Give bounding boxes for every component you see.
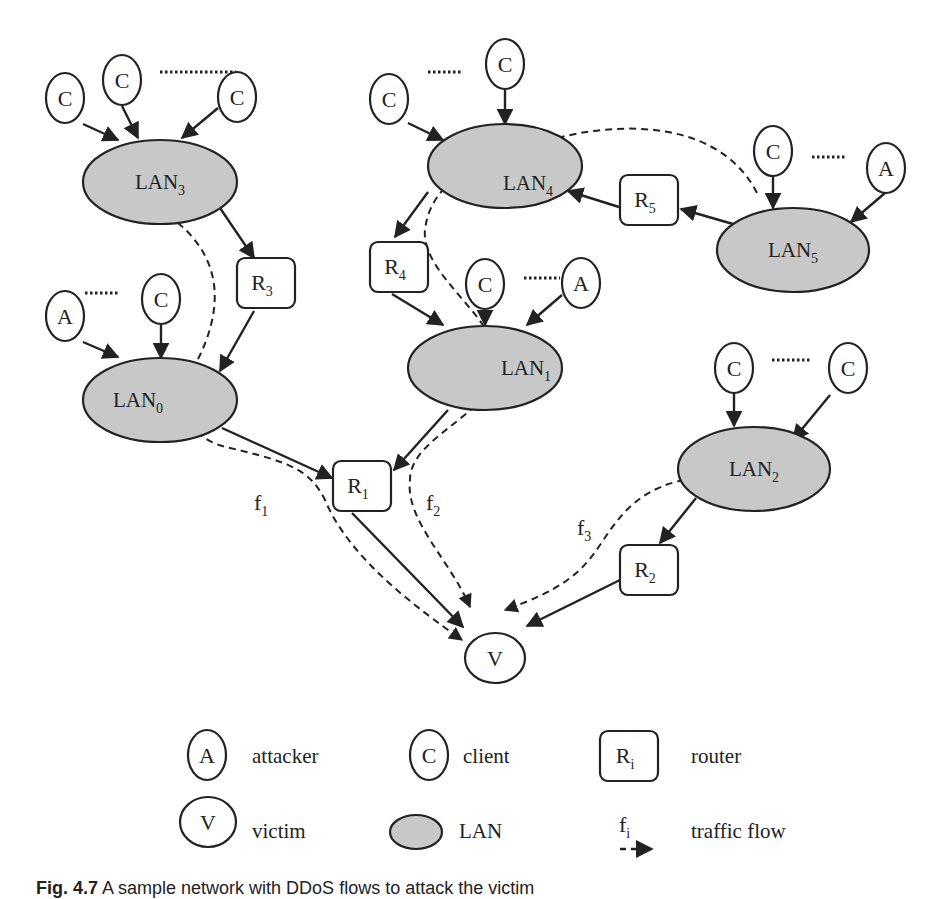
svg-text:LAN5: LAN5 xyxy=(768,238,818,266)
svg-text:LAN2: LAN2 xyxy=(729,457,779,485)
svg-text:C: C xyxy=(230,85,245,110)
attacker-node: A xyxy=(562,258,600,308)
victim-node: V xyxy=(465,633,525,683)
legend-flow: fi traffic flow xyxy=(619,812,786,849)
legend: A attacker C client Ri router V victim L… xyxy=(180,730,786,849)
figure-number: Fig. 4.7 xyxy=(36,878,98,898)
svg-text:C: C xyxy=(766,139,781,164)
router-r5: R5 xyxy=(620,175,678,225)
flow-labels: f1 f2 f3 xyxy=(254,490,591,544)
client-node: C xyxy=(218,72,256,122)
svg-text:LAN3: LAN3 xyxy=(135,170,185,198)
lan-0: LAN0 xyxy=(83,358,237,442)
svg-text:victim: victim xyxy=(252,819,306,843)
client-node: C xyxy=(715,343,753,393)
svg-text:C: C xyxy=(115,68,130,93)
edge-attacker-lan5 xyxy=(851,193,885,222)
svg-text:attacker: attacker xyxy=(252,744,318,768)
edge-client-lan3 xyxy=(122,106,138,138)
figure-caption-text: A sample network with DDoS flows to atta… xyxy=(102,878,534,898)
flow-label-f2: f2 xyxy=(426,490,440,519)
flow-label-f3: f3 xyxy=(577,515,591,544)
svg-text:A: A xyxy=(878,156,894,181)
lan-1: LAN1 xyxy=(408,326,562,410)
svg-text:C: C xyxy=(727,356,742,381)
svg-text:router: router xyxy=(691,744,741,768)
svg-text:fi: fi xyxy=(619,812,630,841)
edge-r4-lan1 xyxy=(392,294,443,325)
svg-text:A: A xyxy=(57,304,73,329)
edge-client-lan3 xyxy=(83,124,118,140)
router-r4: R4 xyxy=(370,242,428,292)
edge-lan0-r1 xyxy=(222,428,332,478)
legend-victim: V victim xyxy=(180,797,306,847)
lan-4: LAN4 xyxy=(428,124,582,208)
svg-text:LAN4: LAN4 xyxy=(503,171,553,199)
edge-r3-lan0 xyxy=(220,311,254,371)
edge-attacker-lan1 xyxy=(527,295,562,325)
attacker-node: A xyxy=(46,291,84,341)
client-node: C xyxy=(754,126,792,176)
svg-text:C: C xyxy=(478,272,493,297)
svg-text:C: C xyxy=(58,86,73,111)
svg-text:A: A xyxy=(573,271,589,296)
svg-text:C: C xyxy=(382,87,397,112)
legend-lan: LAN xyxy=(390,815,502,849)
svg-text:LAN: LAN xyxy=(459,819,502,843)
legend-attacker: A attacker xyxy=(188,730,318,780)
figure-caption: Fig. 4.7 A sample network with DDoS flow… xyxy=(36,878,534,899)
edge-r5-lan4 xyxy=(568,191,619,207)
svg-text:traffic flow: traffic flow xyxy=(691,819,786,843)
svg-text:C: C xyxy=(422,743,437,768)
edge-client-lan3 xyxy=(182,108,218,138)
edge-client-lan2 xyxy=(793,395,830,440)
lan-3: LAN3 xyxy=(83,140,237,224)
lan-5: LAN5 xyxy=(717,208,869,292)
client-node: C xyxy=(103,55,141,105)
edge-lan5-r5 xyxy=(681,209,733,224)
edge-lan2-r2 xyxy=(660,498,696,543)
edge-attacker-lan0 xyxy=(83,342,118,357)
client-node: C xyxy=(46,73,84,123)
svg-text:LAN1: LAN1 xyxy=(501,356,551,384)
lan-icon xyxy=(390,815,442,849)
edge-lan1-r1 xyxy=(394,410,448,470)
lan-2: LAN2 xyxy=(678,427,830,511)
edge-client-lan4 xyxy=(408,123,443,140)
edge-r1-v xyxy=(352,513,463,627)
svg-text:C: C xyxy=(498,52,513,77)
svg-text:A: A xyxy=(199,743,215,768)
svg-text:C: C xyxy=(841,356,856,381)
svg-text:client: client xyxy=(463,744,510,768)
legend-client: C client xyxy=(410,730,510,780)
client-node: C xyxy=(466,259,504,309)
svg-text:V: V xyxy=(487,646,503,671)
attacker-node: A xyxy=(867,143,905,193)
router-r3: R3 xyxy=(237,258,295,308)
router-r2: R2 xyxy=(620,545,678,595)
client-node: C xyxy=(142,274,180,324)
flow-label-f1: f1 xyxy=(254,490,268,519)
client-node: C xyxy=(829,343,867,393)
router-r1: R1 xyxy=(333,461,391,511)
edge-r2-v xyxy=(527,580,620,626)
client-node: C xyxy=(370,74,408,124)
client-node: C xyxy=(486,39,524,89)
edge-lan3-r3 xyxy=(220,208,254,258)
svg-text:LAN0: LAN0 xyxy=(113,388,163,416)
svg-text:V: V xyxy=(200,810,216,835)
legend-router: Ri router xyxy=(600,731,741,781)
svg-text:C: C xyxy=(154,287,169,312)
edge-lan4-r4 xyxy=(395,192,428,237)
